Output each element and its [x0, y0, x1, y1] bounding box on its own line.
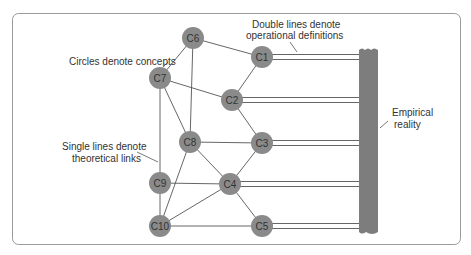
concept-node-c4: C4	[219, 173, 241, 195]
concept-node-c2: C2	[221, 89, 243, 111]
concept-node-c3: C3	[251, 132, 273, 154]
single-lines-annotation-line1: Single lines denote	[62, 141, 147, 152]
empirical-annotation-line2: reality	[394, 119, 421, 130]
concept-label: C5	[256, 221, 269, 232]
double-lines-annotation-line1: Double lines denote	[252, 19, 341, 30]
concept-label: C4	[224, 179, 237, 190]
circles-annotation: Circles denote concepts	[69, 56, 176, 67]
concept-node-c9: C9	[149, 172, 171, 194]
concept-node-c5: C5	[251, 215, 273, 237]
concept-label: C10	[151, 221, 170, 232]
double-lines-annotation-line2: operational definitions	[246, 30, 343, 41]
concept-node-c7: C7	[149, 67, 171, 89]
concept-label: C7	[154, 73, 167, 84]
concept-diagram: C1C2C3C4C5C6C7C8C9C10 Circles denote con…	[0, 0, 471, 255]
concept-label: C6	[187, 33, 200, 44]
concept-label: C8	[184, 137, 197, 148]
single-lines-annotation-line2: theoretical links	[72, 153, 141, 164]
empirical-reality-bar	[359, 49, 378, 235]
concept-label: C3	[256, 138, 269, 149]
concept-label: C1	[256, 52, 269, 63]
empirical-annotation-line1: Empirical	[392, 107, 433, 118]
concept-node-c6: C6	[182, 27, 204, 49]
concept-node-c10: C10	[149, 215, 171, 237]
concept-node-c1: C1	[251, 46, 273, 68]
concept-label: C2	[226, 95, 239, 106]
concept-label: C9	[154, 178, 167, 189]
concept-node-c8: C8	[179, 131, 201, 153]
